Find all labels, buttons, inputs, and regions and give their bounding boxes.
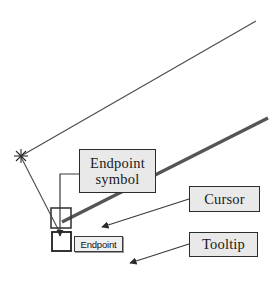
vertex-marker-icon [14, 149, 28, 163]
callout-tooltip: Tooltip [189, 232, 258, 257]
callout-cursor: Cursor [189, 186, 260, 212]
drawing-line-lower [21, 157, 60, 233]
endpoint-snap-square [52, 232, 71, 251]
diagram-canvas: Endpoint symbol Cursor Tooltip Endpoint [0, 0, 278, 281]
leader-cursor [102, 199, 189, 227]
callout-endpoint-symbol: Endpoint symbol [79, 149, 156, 193]
leader-endpoint-symbol [60, 174, 79, 236]
osnap-tooltip: Endpoint [74, 236, 123, 252]
callout-tooltip-label: Tooltip [202, 236, 245, 252]
callout-endpoint-symbol-label: Endpoint symbol [86, 155, 149, 187]
leader-tooltip [130, 244, 189, 263]
osnap-tooltip-label: Endpoint [81, 239, 117, 250]
callout-cursor-label: Cursor [204, 191, 245, 207]
drawing-line-upper [21, 21, 256, 156]
